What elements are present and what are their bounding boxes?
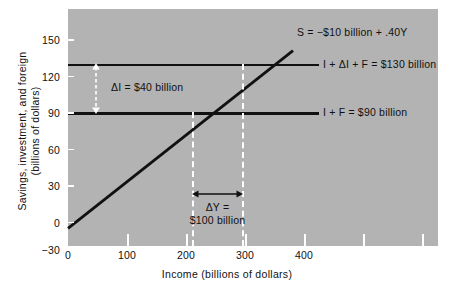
- x-axis: 0 100 200 300 400 Income (billions of do…: [0, 0, 454, 292]
- x-tick-label-300: 300: [215, 249, 275, 261]
- x-axis-title: Income (billions of dollars): [0, 268, 454, 280]
- x-tick-label-100: 100: [97, 249, 157, 261]
- x-tick-label-0: 0: [38, 249, 98, 261]
- x-tick-mark-100: [127, 234, 129, 246]
- economics-chart-figure: ΔI = $40 billion ΔY = $100 billion S = −…: [0, 0, 454, 292]
- x-tick-mark-200: [186, 234, 188, 246]
- x-tick-label-400: 400: [274, 249, 334, 261]
- x-tick-mark-500: [363, 234, 365, 246]
- x-tick-mark-300: [245, 234, 247, 246]
- x-tick-label-200: 200: [156, 249, 216, 261]
- x-tick-mark-600: [422, 234, 424, 246]
- x-tick-mark-400: [304, 234, 306, 246]
